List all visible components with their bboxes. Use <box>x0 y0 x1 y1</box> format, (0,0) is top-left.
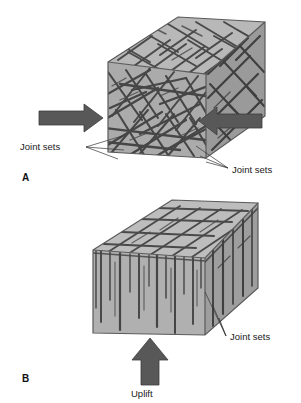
joint-sets-figure: Joint sets Joint sets A <box>0 0 301 403</box>
uplift-label: Uplift <box>131 388 153 399</box>
panel-label-b: B <box>22 373 29 384</box>
joint-sets-label-right: Joint sets <box>232 164 272 175</box>
joint-sets-label-left: Joint sets <box>20 141 60 152</box>
joint-sets-label-b: Joint sets <box>230 331 270 342</box>
panel-label-a: A <box>22 172 29 183</box>
